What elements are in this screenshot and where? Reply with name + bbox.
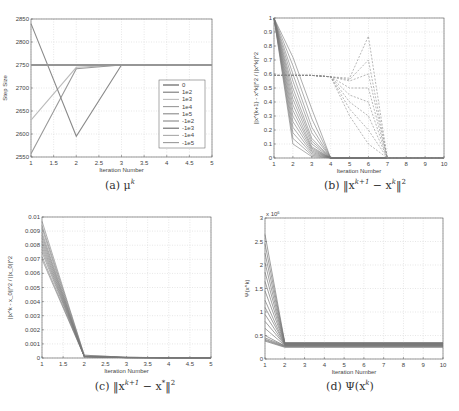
y-tick-label: 0.4	[264, 99, 273, 105]
y-tick-label: 0.003	[25, 313, 41, 319]
legend-label: -1e3	[182, 125, 195, 131]
x-tick-label: 1.5	[49, 160, 58, 166]
y-axis-label: ||x^{k+1} - x^k||^2 / ||x^k||^2	[253, 51, 259, 124]
x-tick-label: 2.5	[101, 361, 110, 367]
y-tick-label: 2700	[16, 85, 30, 91]
caption-a: (a) μk	[70, 178, 170, 192]
legend: 01e21e31e41e5-1e2-1e3-1e4-1e5	[159, 80, 205, 148]
legend-label: -1e4	[182, 132, 195, 138]
legend-label: 1e3	[182, 96, 193, 102]
y-tick-label: 1	[260, 309, 264, 315]
y-multiplier-exponent: 6	[277, 210, 280, 215]
x-tick-label: 10	[441, 161, 448, 167]
y-tick-label: 2	[260, 262, 264, 268]
y-tick-label: 0.005	[25, 285, 41, 291]
caption-d-prefix: (d) Ψ(x	[326, 380, 365, 393]
x-axis-label: Iteration Number	[99, 167, 144, 173]
x-tick-label: 4.5	[186, 361, 195, 367]
y-tick-label: 1.5	[255, 286, 264, 292]
chart-a: 11.522.533.544.5525502600265027002750280…	[2, 16, 214, 173]
y-tick-label: 0.002	[25, 327, 41, 333]
legend-label: 1e4	[182, 104, 193, 110]
x-tick-label: 1.5	[59, 361, 68, 367]
y-axis-label: Step Size	[2, 74, 8, 100]
x-tick-label: 3	[125, 361, 129, 367]
x-tick-label: 5	[210, 160, 214, 166]
y-tick-label: 2650	[16, 108, 30, 114]
x-tick-label: 6	[362, 362, 366, 368]
y-tick-label: 0.5	[255, 333, 264, 339]
x-tick-label: 8	[405, 161, 409, 167]
y-tick-label: 0.7	[264, 57, 273, 63]
x-tick-label: 7	[382, 362, 386, 368]
x-tick-label: 8	[402, 362, 406, 368]
x-tick-label: 3	[120, 160, 124, 166]
y-tick-label: 0.006	[25, 270, 41, 276]
x-tick-label: 2	[83, 361, 87, 367]
x-tick-label: 3.5	[140, 160, 149, 166]
y-axis-label: ||x^k - x_0||^2 / ||x_0||^2	[7, 255, 13, 319]
y-tick-label: 0.009	[25, 228, 41, 234]
figure: 11.522.533.544.5525502600265027002750280…	[0, 0, 459, 411]
caption-c: (c) ‖xk+1 − x*‖2	[60, 379, 210, 393]
y-tick-label: 0.5	[264, 85, 273, 91]
y-tick-label: 0.007	[25, 256, 41, 262]
y-tick-label: 0.1	[264, 141, 273, 147]
x-tick-label: 6	[367, 161, 371, 167]
x-tick-label: 1	[40, 361, 44, 367]
y-tick-label: 2.5	[255, 239, 264, 245]
x-tick-label: 4	[167, 361, 171, 367]
x-tick-label: 3	[310, 161, 314, 167]
caption-c-sup3: 2	[171, 379, 175, 387]
caption-a-sup: k	[131, 178, 135, 186]
caption-b: (b) ‖xk+1 − xk‖2	[290, 178, 440, 192]
legend-label: 1e5	[182, 111, 193, 117]
chart-d: 1234567891000.511.522.53Iteration Number…	[244, 210, 447, 375]
x-tick-label: 5	[209, 361, 213, 367]
y-tick-label: 0.008	[25, 242, 41, 248]
x-axis-label: Iteration Number	[332, 369, 377, 375]
x-tick-label: 1	[272, 161, 276, 167]
caption-c-mid: − x	[139, 380, 161, 393]
plot-area	[265, 218, 443, 359]
legend-label: 1e2	[182, 89, 193, 95]
x-tick-label: 2.5	[95, 160, 104, 166]
chart-c: 11.522.533.544.5500.0010.0020.0030.0040.…	[7, 214, 213, 374]
y-tick-label: 2750	[16, 62, 30, 68]
x-tick-label: 4	[323, 362, 327, 368]
x-tick-label: 5	[342, 362, 346, 368]
x-tick-label: 2	[291, 161, 295, 167]
x-tick-label: 5	[348, 161, 352, 167]
y-tick-label: 2600	[16, 131, 30, 137]
y-tick-label: 0.3	[264, 113, 273, 119]
x-axis-label: Iteration Number	[337, 168, 382, 174]
caption-d-suffix: )	[370, 380, 374, 393]
y-tick-label: 0.8	[264, 43, 273, 49]
y-axis-label: Ψ(x^k)	[244, 280, 250, 298]
x-tick-label: 3	[303, 362, 307, 368]
caption-d: (d) Ψ(xk)	[300, 379, 400, 393]
x-tick-label: 3.5	[143, 361, 152, 367]
y-tick-label: 0.2	[264, 127, 273, 133]
y-tick-label: 2800	[16, 39, 30, 45]
y-tick-label: 2850	[16, 16, 30, 22]
x-tick-label: 4	[165, 160, 169, 166]
caption-b-sup1: k+1	[355, 178, 370, 186]
caption-c-sup1: k+1	[125, 379, 140, 387]
y-tick-label: 0.01	[28, 214, 40, 220]
caption-a-text: (a) μ	[105, 179, 131, 192]
legend-label: -1e5	[182, 140, 195, 146]
x-tick-label: 4.5	[185, 160, 194, 166]
x-tick-label: 9	[423, 161, 427, 167]
x-tick-label: 1	[29, 160, 33, 166]
caption-b-mid: − x	[369, 179, 391, 192]
caption-b-sup3: 2	[402, 178, 406, 186]
x-tick-label: 7	[386, 161, 390, 167]
y-multiplier: x 106	[266, 210, 280, 217]
y-tick-label: 0.004	[25, 299, 41, 305]
figure-canvas: 11.522.533.544.5525502600265027002750280…	[0, 0, 459, 411]
y-tick-label: 0.9	[264, 29, 273, 35]
y-tick-label: 0.6	[264, 71, 273, 77]
y-tick-label: 3	[260, 215, 264, 221]
caption-b-prefix: (b) ‖x	[324, 179, 355, 192]
